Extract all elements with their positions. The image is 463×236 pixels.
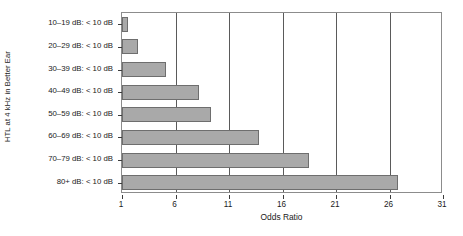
- odds-ratio-bar-chart: HTL at 4 kHz in Better Ear 10–19 dB: < 1…: [0, 0, 463, 236]
- bar: [122, 85, 199, 100]
- y-axis-tick-label: 30–39 dB: < 10 dB: [48, 63, 113, 75]
- y-axis-tick-label: 70–79 dB: < 10 dB: [48, 153, 113, 165]
- y-axis-category-labels: 10–19 dB: < 10 dB20–29 dB: < 10 dB30–39 …: [14, 12, 117, 193]
- y-axis-tick: [118, 47, 122, 48]
- plot-inner: [122, 13, 441, 192]
- bar: [122, 39, 138, 54]
- y-axis-title: HTL at 4 kHz in Better Ear: [0, 0, 14, 193]
- y-axis-tick: [118, 160, 122, 161]
- x-axis-tick-label: 11: [224, 199, 233, 211]
- x-axis-tick-label: 6: [172, 199, 177, 211]
- bar: [122, 62, 166, 77]
- y-axis-tick: [118, 92, 122, 93]
- bar: [122, 107, 211, 122]
- bar: [122, 17, 128, 32]
- y-axis-tick-label: 20–29 dB: < 10 dB: [48, 40, 113, 52]
- plot-area: [121, 12, 442, 193]
- y-axis-tick-label: 10–19 dB: < 10 dB: [48, 17, 113, 29]
- x-axis-title: Odds Ratio: [121, 212, 442, 222]
- x-axis-tick-label: 31: [437, 199, 446, 211]
- y-axis-tick-label: 80+ dB: < 10 dB: [57, 176, 113, 188]
- y-axis-tick: [118, 137, 122, 138]
- y-axis-tick: [118, 70, 122, 71]
- bar: [122, 153, 309, 168]
- gridline: [390, 13, 391, 192]
- bar: [122, 175, 398, 190]
- gridline: [336, 13, 337, 192]
- y-axis-title-text: HTL at 4 kHz in Better Ear: [3, 51, 12, 142]
- y-axis-tick: [118, 115, 122, 116]
- y-axis-tick: [118, 24, 122, 25]
- y-axis-tick: [118, 183, 122, 184]
- x-axis-tick-label: 16: [277, 199, 286, 211]
- x-axis-tick-label: 1: [119, 199, 124, 211]
- bar: [122, 130, 259, 145]
- y-axis-tick-label: 40–49 dB: < 10 dB: [48, 85, 113, 97]
- y-axis-tick-label: 50–59 dB: < 10 dB: [48, 108, 113, 120]
- x-axis-tick-label: 26: [384, 199, 393, 211]
- x-axis-tick-labels: 161116212631: [121, 199, 442, 211]
- y-axis-tick-label: 60–69 dB: < 10 dB: [48, 130, 113, 142]
- x-axis-tick-label: 21: [330, 199, 339, 211]
